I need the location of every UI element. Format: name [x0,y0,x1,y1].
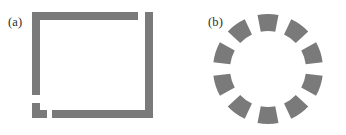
ring-segment-3 [301,42,322,64]
ring-segment-1 [258,14,279,32]
corner-fragment-h [32,110,47,118]
segmented-ring-graphic [209,10,327,128]
bottom-bar [52,110,153,118]
ring-segment-5 [284,95,308,119]
figure-root: (a) (b) [0,0,346,135]
ring-segment-6 [258,106,279,124]
segmented-ring-svg [209,10,327,128]
right-bar [145,12,153,118]
ring-segment-7 [228,95,252,119]
panel-a: (a) [0,0,173,135]
panel-a-label: (a) [8,16,22,29]
ring-segment-8 [213,74,234,96]
ring-segment-9 [213,42,234,64]
top-bar [32,12,138,20]
ring-segment-2 [284,19,308,43]
ring-segment-10 [228,19,252,43]
ring-segment-4 [301,74,322,96]
left-bar [32,12,40,95]
panel-b: (b) [173,0,346,135]
